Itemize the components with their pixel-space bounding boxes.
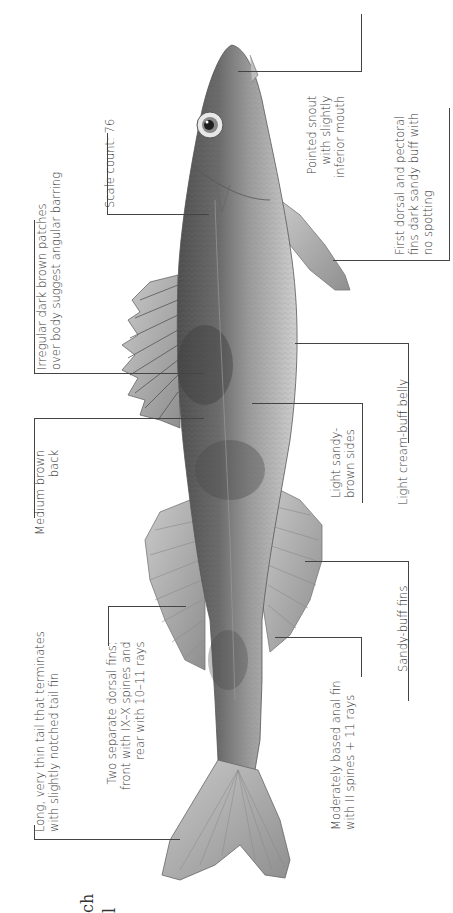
label-scale-count: Scale count: 76 <box>103 119 117 208</box>
tail-fin <box>162 760 290 880</box>
leader-scale-count <box>107 214 209 215</box>
tick-snout <box>361 14 362 72</box>
leader-tail <box>34 839 180 840</box>
label-sides: Light sandy- brown sides <box>329 428 357 498</box>
label-belly: Light cream-buff belly <box>396 379 410 505</box>
label-back: Medium brown back <box>33 450 61 535</box>
label-anal-fin: Moderately based anal fin with II spines… <box>329 681 357 830</box>
label-dorsal-fins: Two separate dorsal fins; front with IX–… <box>105 641 147 790</box>
leader-snout <box>238 71 361 72</box>
tick-pectoral <box>449 108 450 261</box>
title-fragment: ch <box>78 894 97 913</box>
tick-sides <box>362 403 363 503</box>
label-snout: Pointed snout with slightly inferior mou… <box>305 96 347 178</box>
tick-anal <box>361 637 362 677</box>
fish-illustration <box>0 0 453 913</box>
dark-patch <box>208 630 248 690</box>
leader-belly <box>295 343 408 344</box>
leader-anal <box>275 637 361 638</box>
leader-sides <box>252 403 362 404</box>
leader-dorsal <box>108 606 186 607</box>
leader-patches <box>34 373 204 374</box>
leader-back <box>34 418 204 419</box>
title-fragment-2: l <box>100 908 119 913</box>
label-pectoral: First dorsal and pectoral fins dark sand… <box>393 113 435 255</box>
label-tail: Long, very thin tail that terminates wit… <box>33 631 61 832</box>
first-dorsal-fin <box>122 275 180 428</box>
label-sandy-fins: Sandy-buff fins <box>396 586 410 672</box>
leader-sandy-fins <box>305 561 408 562</box>
eye <box>197 112 223 138</box>
dark-patch <box>195 440 265 500</box>
dark-patch <box>177 325 233 405</box>
label-patches: Irregular dark brown patches over body s… <box>35 172 63 370</box>
leader-pectoral <box>333 260 449 261</box>
tick-dorsal <box>108 606 109 646</box>
